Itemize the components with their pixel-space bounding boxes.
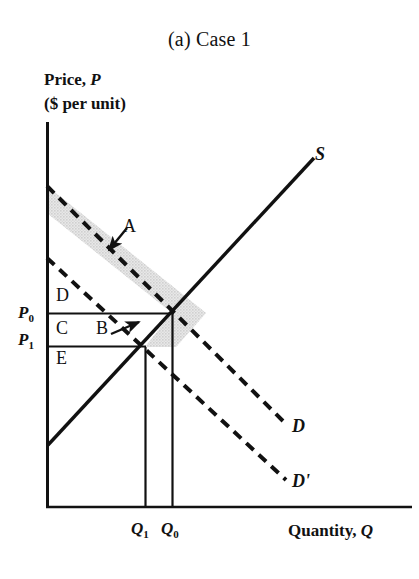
region-label-a: A [123,216,136,237]
price-tick-p0: P0 [18,303,34,324]
supply-curve-label: S [315,144,325,165]
price-tick-p1: P1 [18,330,34,351]
region-label-c: C [56,318,68,339]
quantity-tick-q0-symbol: Q [161,519,173,538]
region-label-e: E [56,348,67,369]
quantity-tick-q1-subscript: 1 [143,528,149,540]
quantity-tick-q1: Q1 [131,519,149,540]
quantity-tick-q1-symbol: Q [131,519,143,538]
price-tick-p0-symbol: P [18,303,28,322]
quantity-tick-q0: Q0 [161,519,179,540]
shaded-region-a [47,186,206,313]
region-label-d: D [56,285,69,306]
price-tick-p1-symbol: P [18,330,28,349]
quantity-tick-q0-subscript: 0 [173,528,179,540]
demand-shifted-curve-label: D' [292,471,310,492]
price-tick-p1-subscript: 1 [28,339,34,351]
region-label-b: B [96,318,108,339]
demand-curve-label: D [292,416,305,437]
supply-curve [48,158,314,445]
price-tick-p0-subscript: 0 [28,312,34,324]
economics-figure: (a) Case 1 Price, P ($ per unit) Quantit… [0,0,419,579]
